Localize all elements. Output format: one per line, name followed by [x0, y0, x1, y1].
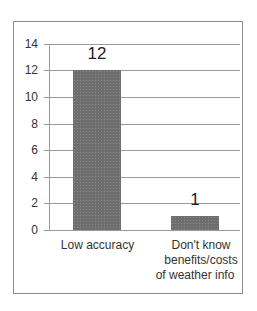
y-tick-label: 0 — [18, 224, 38, 236]
y-tick-label: 12 — [18, 64, 38, 76]
x-axis — [44, 230, 240, 231]
x-category-label: Low accuracy — [50, 238, 145, 253]
y-tick-label: 14 — [18, 38, 38, 50]
data-label: 12 — [73, 45, 121, 63]
data-label: 1 — [171, 191, 219, 209]
x-label-line: of weather info — [140, 268, 250, 283]
y-tick-label: 6 — [18, 144, 38, 156]
y-axis — [49, 44, 50, 231]
y-tick-label: 8 — [18, 118, 38, 130]
bar-low-accuracy — [73, 70, 121, 230]
y-tick-label: 4 — [18, 171, 38, 183]
bar-dont-know — [171, 216, 219, 230]
y-tick-label: 10 — [18, 91, 38, 103]
x-category-label: Don't know benefits/costs of weather inf… — [140, 238, 250, 283]
y-tick-label: 2 — [18, 197, 38, 209]
x-label-line: Don't know — [140, 238, 250, 253]
x-label-line: benefits/costs — [140, 253, 250, 268]
